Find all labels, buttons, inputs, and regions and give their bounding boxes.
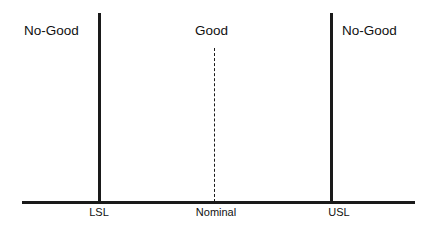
zone-label-good: Good xyxy=(195,24,228,38)
axis-tick-label-lsl: LSL xyxy=(89,207,109,218)
zone-label-left-nogood: No-Good xyxy=(24,24,79,38)
axis-tick-label-usl: USL xyxy=(328,207,349,218)
usl-spec-line xyxy=(330,13,333,202)
axis-tick-label-nominal: Nominal xyxy=(196,207,236,218)
horizontal-axis-line xyxy=(22,201,415,204)
zone-label-right-nogood: No-Good xyxy=(342,24,397,38)
nominal-dashed-line xyxy=(214,48,215,202)
lsl-spec-line xyxy=(98,13,101,202)
spec-limit-diagram: No-Good Good No-Good LSL Nominal USL xyxy=(0,0,432,231)
